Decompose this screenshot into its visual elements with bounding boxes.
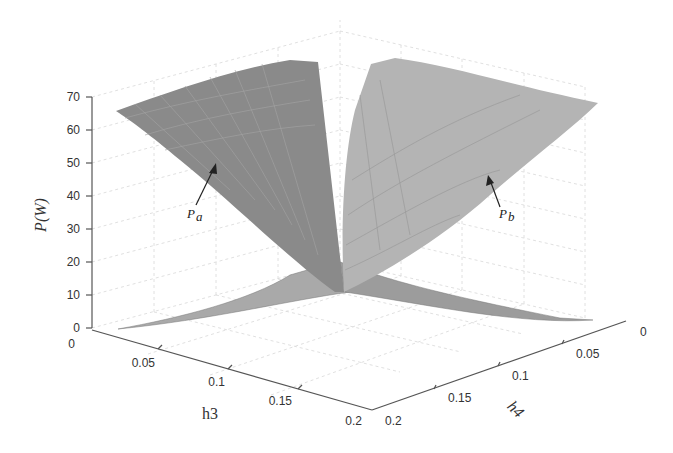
svg-text:P: P xyxy=(498,206,507,221)
svg-text:a: a xyxy=(196,209,203,224)
surface-pb xyxy=(343,58,598,292)
svg-text:70: 70 xyxy=(67,90,81,104)
svg-text:0.15: 0.15 xyxy=(448,391,472,405)
svg-text:0.05: 0.05 xyxy=(576,347,600,361)
grid xyxy=(92,20,585,395)
svg-text:0.2: 0.2 xyxy=(385,414,402,428)
svg-text:0.1: 0.1 xyxy=(512,369,529,383)
surface-plot: 0 10 20 30 40 50 60 70 0 0.05 0.1 0.15 0… xyxy=(0,0,673,453)
svg-text:0: 0 xyxy=(73,321,80,335)
svg-text:0.1: 0.1 xyxy=(208,375,225,389)
svg-text:0: 0 xyxy=(640,325,647,339)
svg-text:40: 40 xyxy=(67,189,81,203)
svg-text:0.2: 0.2 xyxy=(345,414,362,428)
svg-text:60: 60 xyxy=(67,123,81,137)
x-axis-label: h3 xyxy=(202,405,218,422)
svg-text:50: 50 xyxy=(67,156,81,170)
svg-text:20: 20 xyxy=(67,255,81,269)
z-tick-labels: 0 10 20 30 40 50 60 70 xyxy=(67,90,81,335)
z-axis-label: P(W) xyxy=(32,198,50,233)
svg-text:30: 30 xyxy=(67,222,81,236)
svg-text:b: b xyxy=(508,209,515,224)
svg-text:0.15: 0.15 xyxy=(269,394,293,408)
surface-pa xyxy=(116,60,344,292)
y-axis-label: h4 xyxy=(504,397,527,420)
svg-text:0: 0 xyxy=(68,337,75,351)
svg-text:10: 10 xyxy=(67,288,81,302)
svg-text:0.05: 0.05 xyxy=(132,356,156,370)
svg-text:P: P xyxy=(186,206,195,221)
